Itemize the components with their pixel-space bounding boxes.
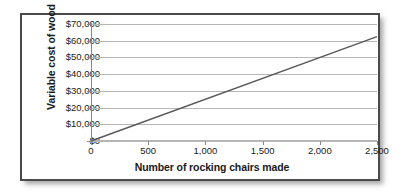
y-axis-tick-mark	[87, 124, 91, 125]
x-axis-tick-label: 1,000	[175, 145, 235, 157]
y-axis-tick-mark	[87, 74, 91, 75]
plot-area	[91, 24, 377, 141]
x-axis-tick-label: 0	[61, 145, 121, 157]
x-axis-tick-label: 500	[118, 145, 178, 157]
data-series-line	[91, 24, 377, 141]
chart-figure-frame: Variable cost of wood $0$10,000$20,000$3…	[20, 13, 380, 181]
y-axis-tick-mark	[87, 24, 91, 25]
y-axis-tick-mark	[87, 108, 91, 109]
x-axis-tick-label-group: 05001,0001,5002,0002,500	[91, 145, 377, 159]
x-axis-tick-label: 2,000	[290, 145, 350, 157]
x-axis-tick-label: 1,500	[233, 145, 293, 157]
x-axis-tick-label: 2,500	[347, 145, 407, 157]
y-axis-tick-mark	[87, 91, 91, 92]
y-axis-tick-mark	[87, 41, 91, 42]
y-axis-tick-mark	[87, 57, 91, 58]
x-axis-title: Number of rocking chairs made	[62, 161, 362, 173]
gridline	[91, 141, 377, 142]
